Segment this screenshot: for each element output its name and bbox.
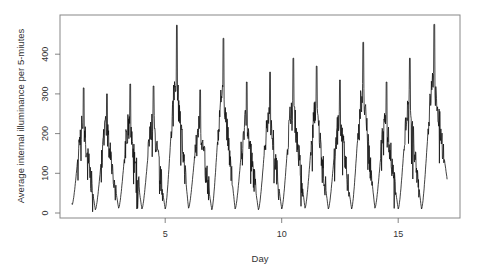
plot-frame <box>60 15 460 218</box>
x-tick-label: 10 <box>277 229 287 239</box>
y-axis-label: Average internal illuminance per 5-miute… <box>15 28 26 203</box>
y-axis: 0100200300400 <box>40 47 60 216</box>
y-tick-label: 0 <box>40 210 50 215</box>
x-axis-label: Day <box>252 253 269 264</box>
x-tick-label: 5 <box>163 229 168 239</box>
y-tick-label: 100 <box>40 166 50 181</box>
data-series-line <box>72 24 447 211</box>
x-tick-label: 15 <box>393 229 403 239</box>
line-chart: 0100200300400 51015 Day Average internal… <box>0 0 480 273</box>
x-axis: 51015 <box>163 218 404 239</box>
y-tick-label: 400 <box>40 47 50 62</box>
y-tick-label: 300 <box>40 86 50 101</box>
y-tick-label: 200 <box>40 126 50 141</box>
